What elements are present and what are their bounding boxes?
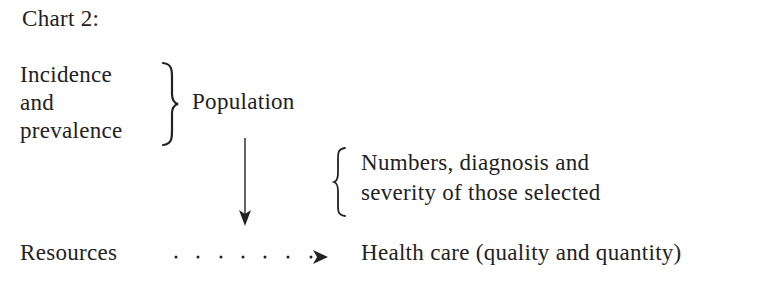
right-brace-icon <box>163 63 178 145</box>
dot <box>175 256 178 259</box>
resources-label: Resources <box>20 240 117 266</box>
incidence-line-1: Incidence <box>20 61 123 89</box>
down-arrow-icon <box>239 210 251 226</box>
dot <box>197 256 200 259</box>
health-care-label: Health care (quality and quantity) <box>361 240 682 266</box>
dot <box>220 256 223 259</box>
left-brace-icon <box>334 148 345 216</box>
incidence-prevalence-label: Incidence and prevalence <box>20 61 123 145</box>
dot <box>310 256 313 259</box>
dot <box>242 256 245 259</box>
dot <box>264 256 267 259</box>
dotted-arrow <box>175 250 329 264</box>
diagram-title: Chart 2: <box>22 6 99 32</box>
right-arrowhead-icon <box>313 250 328 264</box>
dot <box>287 256 290 259</box>
population-label: Population <box>192 89 295 115</box>
incidence-line-3: prevalence <box>20 117 123 145</box>
selection-details-label: Numbers, diagnosis and severity of those… <box>361 148 601 208</box>
incidence-line-2: and <box>20 89 123 117</box>
selection-line-2: severity of those selected <box>361 178 601 208</box>
selection-line-1: Numbers, diagnosis and <box>361 148 601 178</box>
